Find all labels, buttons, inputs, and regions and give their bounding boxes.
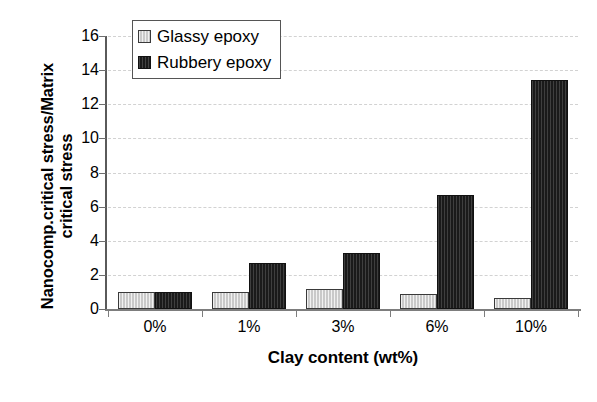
bar-rubbery-epoxy-10pct — [531, 80, 568, 309]
legend: Glassy epoxy Rubbery epoxy — [132, 20, 281, 79]
legend-swatch-rubbery-epoxy — [138, 56, 151, 69]
x-axis-tick-label: 3% — [331, 318, 354, 336]
bar-rubbery-epoxy-3pct — [343, 253, 380, 309]
legend-item-rubbery-epoxy[interactable]: Rubbery epoxy — [138, 50, 271, 74]
legend-label-rubbery-epoxy: Rubbery epoxy — [157, 54, 271, 71]
bar-chart: Nanocomp.critical stress/Matrix critical… — [0, 0, 597, 402]
bar-glassy-epoxy-10pct — [494, 298, 531, 309]
y-axis-tick-label: 2 — [90, 266, 99, 284]
x-axis-tick-label: 0% — [143, 318, 166, 336]
y-axis-tick-label: 0 — [90, 300, 99, 318]
x-axis-line — [105, 309, 581, 311]
legend-label-glassy-epoxy: Glassy epoxy — [157, 28, 259, 45]
bar-glassy-epoxy-3pct — [306, 289, 343, 309]
x-axis-tick-mark — [578, 310, 579, 317]
x-axis-tick-label: 6% — [425, 318, 448, 336]
y-axis-tick-label: 14 — [81, 61, 99, 79]
y-axis-tick-mark — [99, 104, 106, 105]
bar-rubbery-epoxy-0pct — [155, 292, 192, 309]
bar-rubbery-epoxy-1pct — [249, 263, 286, 309]
bar-rubbery-epoxy-6pct — [437, 195, 474, 309]
x-axis-tick-mark — [390, 310, 391, 317]
legend-item-glassy-epoxy[interactable]: Glassy epoxy — [138, 24, 271, 48]
bar-glassy-epoxy-1pct — [212, 292, 249, 309]
x-axis-tick-label: 10% — [515, 318, 547, 336]
y-axis-tick-mark — [99, 241, 106, 242]
legend-swatch-glassy-epoxy — [138, 30, 151, 43]
x-axis-tick-labels: 0%1%3%6%10% — [108, 318, 578, 344]
y-axis-tick-labels: 0246810121416 — [60, 28, 104, 318]
y-axis-tick-label: 16 — [81, 27, 99, 45]
y-axis-tick-mark — [99, 173, 106, 174]
y-axis-tick-label: 4 — [90, 232, 99, 250]
x-axis-tick-mark — [108, 310, 109, 317]
x-axis-tick-mark — [296, 310, 297, 317]
bar-glassy-epoxy-6pct — [400, 294, 437, 309]
y-axis-tick-label: 8 — [90, 164, 99, 182]
y-axis-tick-mark — [99, 36, 106, 37]
y-axis-tick-mark — [99, 309, 106, 310]
y-axis-title-line-1: Nanocomp.critical stress/Matrix — [38, 63, 57, 309]
y-axis-tick-label: 6 — [90, 198, 99, 216]
x-axis-title: Clay content (wt%) — [108, 348, 578, 368]
y-axis-tick-label: 12 — [81, 95, 99, 113]
y-axis-tick-label: 10 — [81, 129, 99, 147]
y-axis-tick-mark — [99, 138, 106, 139]
y-axis-tick-mark — [99, 70, 106, 71]
y-axis-tick-mark — [99, 275, 106, 276]
y-axis-tick-mark — [99, 207, 106, 208]
x-axis-tick-label: 1% — [237, 318, 260, 336]
x-axis-tick-mark — [484, 310, 485, 317]
x-axis-tick-mark — [202, 310, 203, 317]
bar-glassy-epoxy-0pct — [118, 292, 155, 309]
